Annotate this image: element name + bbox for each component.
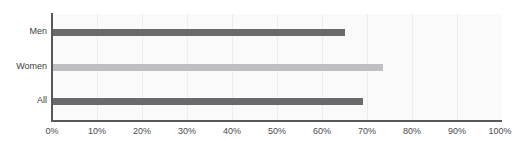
bar-men[interactable]	[52, 29, 345, 36]
x-axis-tick-100: 100%	[488, 126, 511, 136]
x-axis-tick-90: 90%	[448, 126, 466, 136]
x-axis-tick-20: 20%	[133, 126, 151, 136]
x-axis-tick-40: 40%	[223, 126, 241, 136]
bar-track	[52, 14, 502, 120]
x-axis-tick-60: 60%	[313, 126, 331, 136]
y-axis-label-women-text: Women	[16, 61, 47, 71]
y-axis-label-all-text: All	[37, 95, 47, 105]
x-axis-tick-10: 10%	[88, 126, 106, 136]
x-axis-tick-50: 50%	[268, 126, 286, 136]
y-axis-spine	[51, 13, 53, 121]
bar-women[interactable]	[52, 64, 383, 71]
bar-all[interactable]	[52, 98, 363, 105]
x-axis-tick-0: 0%	[45, 126, 58, 136]
y-axis-label-men-text: Men	[29, 26, 47, 36]
x-axis-line	[51, 120, 502, 122]
x-axis-tick-80: 80%	[403, 126, 421, 136]
y-axis-label-women: Women	[0, 61, 47, 71]
bar-chart: Men Women All 0% 10% 20% 30% 40% 50% 60%…	[0, 0, 527, 141]
plot-area	[52, 14, 502, 120]
x-axis-tick-30: 30%	[178, 126, 196, 136]
y-axis-label-all: All	[0, 95, 47, 105]
y-axis-label-men: Men	[0, 26, 47, 36]
x-axis-tick-70: 70%	[358, 126, 376, 136]
